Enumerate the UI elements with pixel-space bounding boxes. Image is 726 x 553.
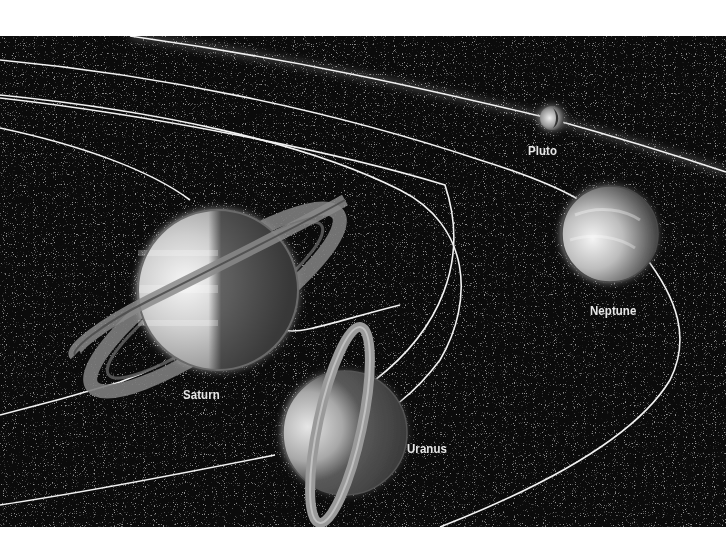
- pluto-planet: [540, 106, 564, 130]
- uranus-label: Uranus: [407, 441, 447, 456]
- planet-scene-graphic: [0, 36, 726, 527]
- neptune-label: Neptune: [590, 303, 636, 318]
- neptune-planet: [562, 186, 658, 282]
- space-illustration: Pluto Neptune Saturn Uranus: [0, 36, 726, 527]
- pluto-label: Pluto: [528, 143, 557, 158]
- saturn-label: Saturn: [183, 387, 220, 402]
